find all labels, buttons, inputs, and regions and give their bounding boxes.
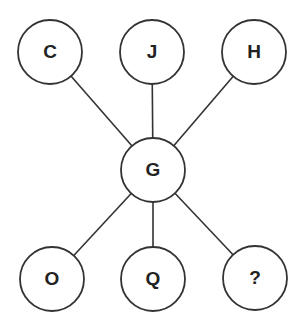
node-label-c: C xyxy=(18,20,82,84)
node-label-unknown: ? xyxy=(223,246,287,310)
node-label-q: Q xyxy=(121,247,185,311)
node-label-g: G xyxy=(121,138,185,202)
node-label-j: J xyxy=(120,20,184,84)
node-label-o: O xyxy=(20,247,84,311)
node-label-h: H xyxy=(222,20,286,84)
